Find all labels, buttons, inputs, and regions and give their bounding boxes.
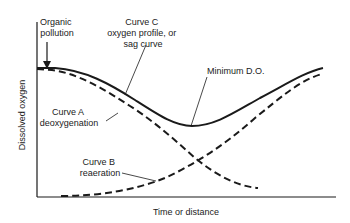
pollution-arrow-icon: [43, 42, 51, 69]
pollution-label: Organic pollution: [40, 17, 74, 38]
curve-a-leader: [106, 113, 118, 121]
curve-a-deoxygenation: [37, 69, 258, 188]
curve-c-leader: [125, 45, 146, 95]
y-axis-label: Dissolved oxygen: [17, 80, 27, 151]
curve-a-label: Curve A deoxygenation: [40, 107, 99, 128]
curve-b-label: Curve B reaeration: [80, 157, 121, 178]
x-axis-label: Time or distance: [153, 207, 219, 217]
minimum-leader: [191, 77, 207, 126]
oxygen-sag-diagram: Organic pollution Curve C oxygen profile…: [0, 0, 350, 223]
curve-b-leader: [122, 173, 156, 181]
minimum-do-label: Minimum D.O.: [207, 66, 265, 76]
curve-c-label: Curve C oxygen profile, or sag curve: [107, 17, 179, 49]
